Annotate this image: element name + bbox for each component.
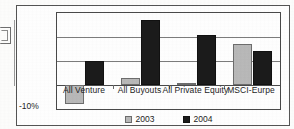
bar-2004-msci-eurpe bbox=[253, 51, 272, 85]
page-edge-marker-icon bbox=[0, 27, 11, 44]
legend-label-2004: 2004 bbox=[194, 114, 213, 124]
chart-legend: 2003 2004 bbox=[56, 113, 281, 125]
category-label-msci-eurpe: MSCI-Eurpe bbox=[227, 85, 275, 95]
bar-2003-all-buyouts bbox=[121, 78, 140, 85]
bar-2004-all-venture bbox=[85, 61, 104, 85]
y-axis-min-label: -10% bbox=[19, 101, 39, 111]
bar-2004-all-private-equity bbox=[197, 35, 216, 85]
legend-item-2003[interactable]: 2003 bbox=[125, 114, 155, 124]
category-label-all-private-equity: All Private Equity bbox=[162, 85, 228, 95]
legend-swatch-2004 bbox=[183, 116, 190, 123]
plot-area bbox=[56, 12, 281, 110]
page-edge-rule bbox=[14, 20, 15, 86]
scanned-page-background: All VentureAll BuyoutsAll Private Equity… bbox=[0, 0, 294, 129]
bar-2003-msci-eurpe bbox=[233, 44, 252, 85]
bar-2004-all-buyouts bbox=[141, 20, 160, 85]
legend-item-2004[interactable]: 2004 bbox=[183, 114, 213, 124]
legend-label-2003: 2003 bbox=[136, 114, 155, 124]
legend-swatch-2003 bbox=[125, 116, 132, 123]
category-label-all-buyouts: All Buyouts bbox=[118, 85, 162, 95]
category-label-all-venture: All Venture bbox=[63, 85, 105, 95]
